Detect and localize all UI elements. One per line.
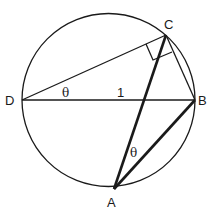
angle-label-theta-D: θ [62,86,69,100]
point-label-D: D [5,93,14,108]
point-label-B: B [198,93,207,108]
point-label-C: C [164,17,173,32]
point-label-A: A [107,195,116,210]
angle-label-theta-A: θ [130,146,137,160]
length-label-1: 1 [117,85,124,100]
segment-DC [22,35,166,100]
segment-CB [166,35,195,100]
geometry-figure: C D B A θ 1 θ [0,0,218,214]
circle-diagram: C D B A θ 1 θ [0,0,218,214]
